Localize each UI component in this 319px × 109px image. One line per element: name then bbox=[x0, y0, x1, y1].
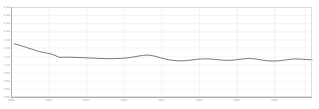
x-axis-tick-label: 2015 bbox=[233, 99, 240, 102]
y-axis-tick-label: 1.15 bbox=[4, 56, 10, 59]
plot-background bbox=[11, 7, 312, 97]
x-axis-tick-label: 2012 bbox=[121, 99, 128, 102]
y-axis-tick-label: 1.45 bbox=[4, 6, 10, 9]
y-axis-tick-label: 1.40 bbox=[4, 14, 10, 17]
y-axis-tick-label: 1.00 bbox=[4, 80, 10, 83]
x-axis-tick-label: 2009 bbox=[8, 99, 15, 102]
x-axis-tick-label: 2013 bbox=[158, 99, 165, 102]
x-axis-tick-label: 2014 bbox=[196, 99, 203, 102]
y-axis-tick-label: 1.05 bbox=[4, 72, 10, 75]
y-axis-tick-label: 1.10 bbox=[4, 64, 10, 67]
line-chart: 0.900.951.001.051.101.151.201.251.301.35… bbox=[0, 0, 319, 109]
y-axis-tick-label: 1.35 bbox=[4, 22, 10, 25]
x-axis-tick-label: 2011 bbox=[83, 99, 90, 102]
y-axis-tick-label: 1.30 bbox=[4, 30, 10, 33]
y-axis-tick-label: 1.25 bbox=[4, 39, 10, 42]
x-axis-tick-label: 2016 bbox=[271, 99, 278, 102]
y-axis-tick-label: 0.95 bbox=[4, 88, 10, 91]
x-axis-tick-label: 2010 bbox=[45, 99, 52, 102]
y-axis-tick-label: 1.20 bbox=[4, 47, 10, 50]
chart-canvas: 0.900.951.001.051.101.151.201.251.301.35… bbox=[0, 0, 319, 109]
